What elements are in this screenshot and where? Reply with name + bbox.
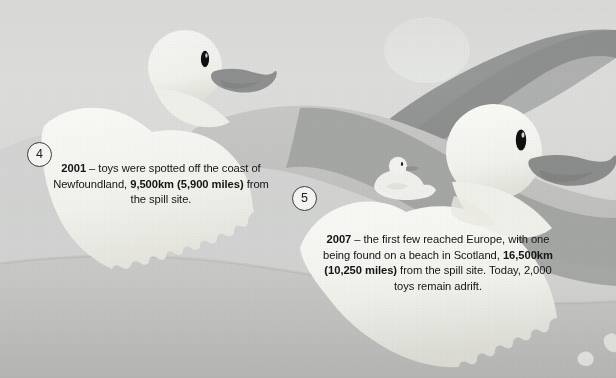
callout-5-year: 2007: [327, 233, 352, 245]
duck-large-right-eye: [516, 130, 526, 151]
callout-4-distance: 9,500km (5,900 miles): [130, 178, 243, 190]
duck-top-left-eye-glint: [205, 53, 207, 57]
callout-4-year: 2001: [61, 162, 86, 174]
callout-4-text: 2001 – toys were spotted off the coast o…: [50, 161, 272, 208]
infographic-panel: 4 2001 – toys were spotted off the coast…: [0, 0, 616, 378]
callout-5-text: 2007 – the first few reached Europe, wit…: [320, 232, 556, 294]
duck-small-center-eye: [401, 162, 403, 166]
callout-5-seg-3: from the spill site. Today, 2,000 toys r…: [394, 264, 552, 292]
duck-large-right-eye-glint: [522, 132, 525, 138]
duck-small-center-head: [389, 157, 407, 175]
callout-4-marker: 4: [27, 142, 52, 167]
wave-pale-blob: [384, 17, 470, 83]
duck-top-left-eye: [201, 51, 209, 67]
callout-5-marker: 5: [292, 186, 317, 211]
